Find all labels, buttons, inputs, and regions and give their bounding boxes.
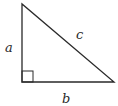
side-label-a: a	[5, 41, 13, 54]
side-label-c: c	[76, 28, 83, 41]
side-label-b: b	[62, 92, 70, 105]
right-angle-marker	[22, 71, 33, 82]
right-triangle	[22, 4, 114, 82]
triangle-diagram	[0, 0, 118, 106]
